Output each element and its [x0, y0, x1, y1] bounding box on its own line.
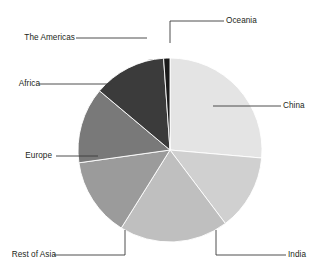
slice-label-the-americas: The Americas [24, 34, 75, 42]
slice-label-oceania: Oceania [226, 17, 257, 25]
pie-slice-china [170, 58, 262, 158]
slice-label-china: China [283, 102, 305, 110]
slice-label-europe: Europe [25, 152, 52, 160]
leader-line-rest-of-asia [54, 230, 125, 255]
slice-label-rest-of-asia: Rest of Asia [12, 251, 56, 259]
slice-label-india: India [288, 251, 306, 259]
slice-label-africa: Africa [19, 80, 40, 88]
pie-slice-group [78, 58, 262, 242]
pie-chart: Oceania China India Rest of Asia Europe … [0, 0, 320, 276]
leader-line-india [216, 230, 286, 255]
leader-line-oceania [170, 21, 224, 43]
